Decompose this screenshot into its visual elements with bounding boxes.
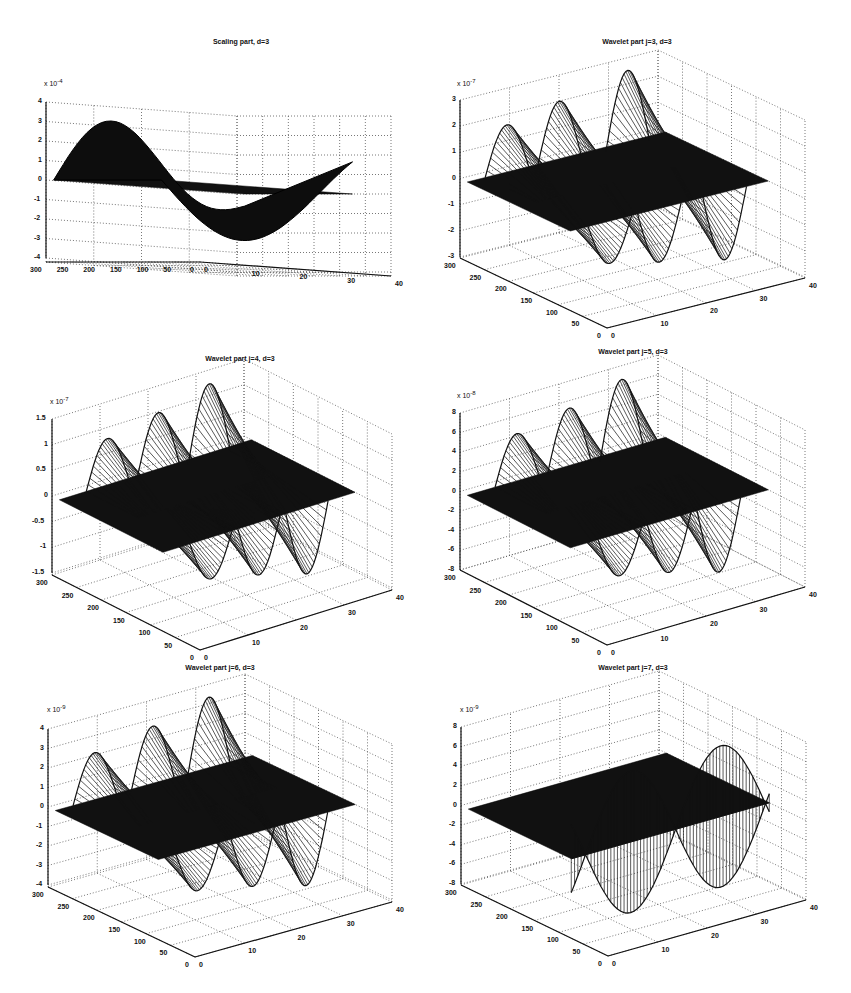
z-tick-label: 6: [453, 742, 457, 749]
x-tick-label: 100: [137, 266, 149, 273]
z-multiplier: x 10-9: [460, 704, 479, 713]
z-tick-label: 1: [40, 783, 44, 790]
y-tick-label: 10: [661, 320, 669, 327]
figure-grid: Scaling part, d=3 x 10-4 43210-1-2-3-430…: [0, 0, 851, 993]
z-tick-label: -0.5: [32, 517, 44, 524]
x-tick-label: 50: [572, 637, 580, 644]
z-tick-label: -3: [36, 861, 42, 868]
z-tick-label: -4: [448, 526, 454, 533]
y-tick-label: 20: [298, 934, 306, 941]
z-tick-label: 1: [452, 147, 456, 154]
x-tick-label: 0: [598, 960, 602, 967]
plot-wavelet-j4: Wavelet part j=4, d=3 x 10-7 1.510.50-0.…: [0, 330, 425, 661]
z-tick-label: -2: [448, 506, 454, 513]
z-tick-label: -8: [449, 879, 455, 886]
z-tick-label: 0: [452, 174, 456, 181]
y-tick-label: 40: [396, 906, 404, 913]
x-tick-label: 0: [597, 649, 601, 656]
x-tick-label: 300: [444, 262, 456, 269]
plot-wavelet-j6: Wavelet part j=6, d=3 x 10-9 43210-1-2-3…: [0, 660, 425, 991]
z-tick-label: 1: [38, 156, 42, 163]
y-tick-label: 20: [711, 932, 719, 939]
x-tick-label: 50: [163, 266, 171, 273]
x-tick-label: 300: [30, 266, 42, 273]
plot-canvas: [425, 660, 850, 991]
z-multiplier: x 10-7: [50, 396, 69, 405]
x-tick-label: 150: [109, 926, 121, 933]
z-tick-label: -1: [448, 200, 454, 207]
z-tick-label: -1.5: [32, 568, 44, 575]
x-tick-label: 250: [470, 274, 482, 281]
plot-title: Wavelet part j=6, d=3: [185, 664, 254, 671]
x-tick-label: 150: [521, 297, 533, 304]
y-tick-label: 0: [611, 649, 615, 656]
y-tick-label: 40: [810, 904, 818, 911]
x-tick-label: 250: [471, 901, 483, 908]
x-tick-label: 150: [522, 925, 534, 932]
x-tick-label: 200: [495, 599, 507, 606]
z-tick-label: 2: [40, 763, 44, 770]
z-tick-label: 0: [453, 801, 457, 808]
y-tick-label: 20: [710, 307, 718, 314]
plot-title: Wavelet part j=5, d=3: [598, 348, 667, 355]
x-tick-label: 100: [547, 936, 559, 943]
x-tick-label: 50: [164, 642, 172, 649]
x-tick-label: 100: [546, 624, 558, 631]
z-tick-label: -6: [449, 859, 455, 866]
z-tick-label: 2: [38, 136, 42, 143]
y-tick-label: 40: [396, 594, 404, 601]
y-tick-label: 30: [760, 606, 768, 613]
plot-wavelet-j5: Wavelet part j=5, d=3 x 10-8 86420-2-4-6…: [425, 330, 850, 661]
x-tick-label: 100: [139, 629, 151, 636]
z-tick-label: -1: [34, 195, 40, 202]
plot-canvas: [425, 0, 850, 331]
plot-canvas: [0, 330, 425, 661]
plot-wavelet-j7: Wavelet part j=7, d=3 x 10-9 86420-2-4-6…: [425, 660, 850, 991]
z-tick-label: 4: [38, 97, 42, 104]
z-tick-label: 2: [452, 467, 456, 474]
plot-canvas: [0, 0, 425, 331]
y-tick-label: 40: [809, 282, 817, 289]
plot-title: Scaling part, d=3: [213, 38, 269, 45]
z-tick-label: 2: [452, 121, 456, 128]
z-multiplier: x 10-9: [47, 704, 66, 713]
x-tick-label: 200: [83, 266, 95, 273]
plot-title: Wavelet part j=4, d=3: [205, 355, 274, 362]
z-multiplier: x 10-4: [44, 78, 63, 87]
z-tick-label: 4: [40, 724, 44, 731]
x-tick-label: 50: [572, 320, 580, 327]
plot-wavelet-j3: Wavelet part j=3, d=3 x 10-7 3210-1-2-33…: [425, 0, 850, 331]
y-tick-label: 10: [662, 946, 670, 953]
z-tick-label: -1: [40, 542, 46, 549]
x-tick-label: 50: [573, 948, 581, 955]
z-tick-label: -4: [34, 253, 40, 260]
x-tick-label: 300: [444, 574, 456, 581]
x-tick-label: 200: [87, 604, 99, 611]
y-tick-label: 40: [809, 591, 817, 598]
x-tick-label: 50: [160, 949, 168, 956]
z-tick-label: -3: [34, 234, 40, 241]
z-tick-label: -2: [34, 214, 40, 221]
y-tick-label: 30: [348, 609, 356, 616]
z-tick-label: 3: [38, 117, 42, 124]
z-tick-label: 0: [452, 487, 456, 494]
z-tick-label: -2: [36, 841, 42, 848]
y-tick-label: 0: [199, 961, 203, 968]
y-tick-label: 20: [300, 624, 308, 631]
x-tick-label: 250: [62, 592, 74, 599]
y-tick-label: 40: [395, 280, 403, 287]
x-tick-label: 100: [134, 938, 146, 945]
z-tick-label: 8: [452, 408, 456, 415]
x-tick-label: 300: [36, 579, 48, 586]
x-tick-label: 200: [495, 285, 507, 292]
x-tick-label: 150: [521, 612, 533, 619]
z-tick-label: 3: [452, 95, 456, 102]
y-tick-label: 10: [252, 639, 260, 646]
z-tick-label: -1: [36, 822, 42, 829]
z-tick-label: 8: [453, 722, 457, 729]
z-tick-label: 0: [38, 175, 42, 182]
z-tick-label: 0.5: [36, 465, 46, 472]
z-tick-label: 3: [40, 744, 44, 751]
y-tick-label: 20: [710, 620, 718, 627]
x-tick-label: 200: [83, 914, 95, 921]
